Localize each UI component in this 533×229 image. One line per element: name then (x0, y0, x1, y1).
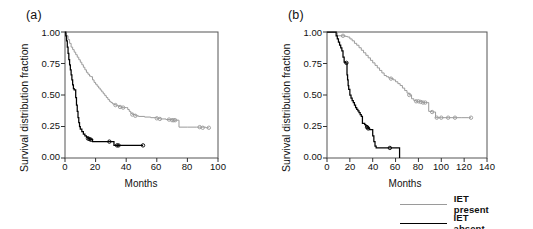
panel-a-xtick-100: 100 (208, 161, 228, 172)
survival-curve (65, 32, 143, 145)
panel-b-ytick-0.50: 0.50 (296, 89, 322, 100)
panel-b-xtick-140: 140 (477, 161, 497, 172)
panel-a-ytick-0.50: 0.50 (34, 89, 60, 100)
panel-a-xtick-80: 80 (177, 161, 197, 172)
panel-b-xtick-20: 20 (340, 161, 360, 172)
panel-a-label: (a) (26, 8, 42, 22)
panel-b-xtick-60: 60 (385, 161, 405, 172)
panel-b-label: (b) (288, 8, 304, 22)
panel-b-tickmarks (323, 32, 487, 162)
panel-b-xtick-100: 100 (431, 161, 451, 172)
panel-a-tickmarks (61, 32, 218, 162)
panel-b-xtick-40: 40 (363, 161, 383, 172)
legend-swatch-iet-absent (400, 223, 447, 224)
panel-b-ytick-1.00: 1.00 (296, 27, 322, 38)
panel-a-xtick-0: 0 (55, 161, 75, 172)
panel-a-xtick-40: 40 (116, 161, 136, 172)
panel-b-xtick-80: 80 (408, 161, 428, 172)
panel-b-x-axis-title: Months (375, 178, 435, 189)
figure-kaplan-meier: (a) Survival distribution fraction 1.00 … (0, 0, 533, 229)
panel-a-ytick-0.75: 0.75 (34, 58, 60, 69)
survival-curve (65, 32, 209, 128)
panel-a-ytick-1.00: 1.00 (34, 27, 60, 38)
panel-b-ytick-0.75: 0.75 (296, 58, 322, 69)
panel-a-y-axis-title: Survival distribution fraction (18, 44, 30, 172)
panel-a-x-axis-title: Months (111, 178, 171, 189)
panel-a-ytick-0.25: 0.25 (34, 120, 60, 131)
panel-a-xtick-60: 60 (146, 161, 166, 172)
legend-label-iet-absent: IET absent (454, 212, 495, 229)
legend-swatch-iet-present (400, 204, 447, 205)
panel-b-y-axis-title: Survival distribution fraction (280, 44, 292, 172)
panel-a-series (65, 32, 211, 147)
panel-a: (a) Survival distribution fraction 1.00 … (0, 0, 266, 229)
panel-b-xtick-120: 120 (454, 161, 474, 172)
panel-b-xtick-0: 0 (317, 161, 337, 172)
legend-item-iet-absent: IET absent (400, 212, 494, 229)
survival-curve (327, 32, 471, 118)
panel-b-ytick-0.25: 0.25 (296, 120, 322, 131)
panel-b-series (327, 32, 473, 158)
panel-a-xtick-20: 20 (85, 161, 105, 172)
